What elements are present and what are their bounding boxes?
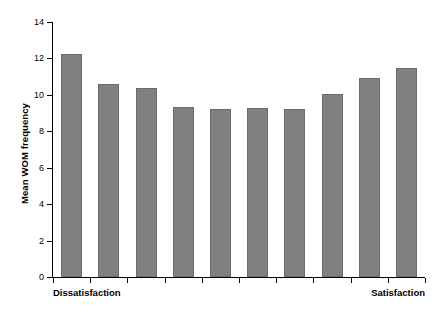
x-axis-tick — [90, 278, 91, 283]
y-axis-tick — [47, 95, 52, 96]
x-axis-label-satisfaction: Satisfaction — [371, 287, 425, 298]
x-axis-tick — [351, 278, 352, 283]
bar — [322, 94, 343, 277]
x-axis-tick — [127, 278, 128, 283]
x-axis-tick — [388, 278, 389, 283]
bar — [210, 109, 231, 277]
x-axis-tick — [53, 278, 54, 283]
y-axis-tick-label: 8 — [4, 126, 44, 136]
bar — [359, 78, 380, 277]
x-axis-tick — [276, 278, 277, 283]
x-axis-tick — [425, 278, 426, 283]
bar — [136, 88, 157, 277]
y-axis-tick — [47, 241, 52, 242]
y-axis-tick — [47, 168, 52, 169]
y-axis-tick-label: 4 — [4, 199, 44, 209]
y-axis-tick-label: 2 — [4, 236, 44, 246]
bar — [247, 108, 268, 277]
bar-chart-figure: Mean WOM frequency 02468101214 Dissatisf… — [0, 0, 433, 316]
y-axis-tick-label: 14 — [4, 17, 44, 27]
x-axis-label-dissatisfaction: Dissatisfaction — [53, 287, 121, 298]
bar — [98, 84, 119, 277]
y-axis-tick-label: 10 — [4, 90, 44, 100]
bar — [61, 54, 82, 277]
x-axis-tick — [239, 278, 240, 283]
y-axis-tick — [47, 22, 52, 23]
y-axis-tick — [47, 277, 52, 278]
x-axis-tick — [202, 278, 203, 283]
bar — [284, 109, 305, 277]
x-axis-tick — [313, 278, 314, 283]
y-axis-tick — [47, 131, 52, 132]
y-axis-line — [52, 22, 53, 278]
bar — [173, 107, 194, 277]
y-axis-tick-label: 12 — [4, 53, 44, 63]
y-axis-tick — [47, 204, 52, 205]
y-axis-tick — [47, 58, 52, 59]
x-axis-tick — [165, 278, 166, 283]
y-axis-tick-label: 6 — [4, 163, 44, 173]
y-axis-tick-label: 0 — [4, 272, 44, 282]
bar — [396, 68, 417, 277]
